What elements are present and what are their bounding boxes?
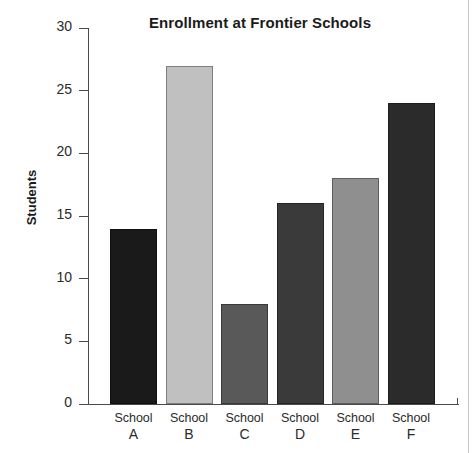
plot-area: [88, 28, 458, 404]
bar: [277, 203, 324, 404]
category-label-line2: E: [326, 426, 385, 442]
y-axis-tick-label: 20: [28, 144, 72, 158]
bar-column: [166, 28, 213, 404]
bar-column: [221, 28, 268, 404]
category-label-line1: School: [271, 410, 330, 426]
y-axis-label: Students: [24, 153, 39, 243]
bar-column: [388, 28, 435, 404]
x-axis-category-label: SchoolE: [326, 410, 385, 442]
bar-column: [110, 28, 157, 404]
y-axis-tick-label: 5: [28, 332, 72, 346]
category-label-line1: School: [326, 410, 385, 426]
category-label-line2: C: [215, 426, 274, 442]
y-axis-tick: [79, 216, 88, 217]
bar: [110, 229, 157, 404]
category-label-line2: B: [160, 426, 219, 442]
bar: [332, 178, 379, 404]
bar-chart-figure: Enrollment at Frontier Schools Students …: [0, 0, 473, 453]
y-axis-tick-label: 10: [28, 270, 72, 284]
y-axis-tick: [79, 341, 88, 342]
x-axis-line: [88, 404, 459, 405]
bar: [388, 103, 435, 404]
category-label-line2: D: [271, 426, 330, 442]
x-axis-category-label: SchoolC: [215, 410, 274, 442]
y-axis-tick: [79, 90, 88, 91]
category-label-line2: A: [104, 426, 163, 442]
bar-column: [332, 28, 379, 404]
y-axis-tick: [79, 28, 88, 29]
bar: [166, 66, 213, 404]
y-axis-tick: [79, 278, 88, 279]
category-label-line1: School: [215, 410, 274, 426]
x-axis-category-label: SchoolA: [104, 410, 163, 442]
category-label-line1: School: [160, 410, 219, 426]
y-axis-tick-label: 30: [28, 19, 72, 33]
y-axis-tick: [79, 153, 88, 154]
x-axis-category-label: SchoolD: [271, 410, 330, 442]
category-label-line2: F: [382, 426, 441, 442]
x-axis-category-label: SchoolF: [382, 410, 441, 442]
x-axis-category-label: SchoolB: [160, 410, 219, 442]
category-label-line1: School: [104, 410, 163, 426]
y-axis-tick: [79, 404, 88, 405]
bar: [221, 304, 268, 404]
figure-frame-border: [468, 0, 469, 453]
bar-column: [277, 28, 324, 404]
y-axis-tick-label: 25: [28, 82, 72, 96]
category-label-line1: School: [382, 410, 441, 426]
y-axis-tick-label: 0: [28, 395, 72, 409]
y-axis-tick-label: 15: [28, 207, 72, 221]
